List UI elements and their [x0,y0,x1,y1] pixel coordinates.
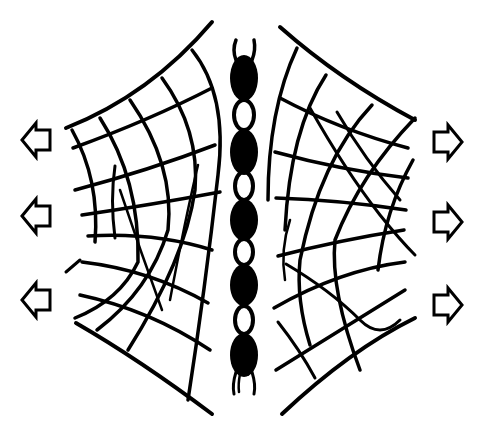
chain-black-segment [230,264,258,306]
chain-web-diagram [0,0,482,424]
chain-top-horn-left [234,40,236,60]
chain-bottom-leg-mid [239,374,240,392]
chain-black-segment [230,129,258,175]
central-chain [230,40,258,394]
chain-black-segment [230,199,258,241]
chain-white-link [234,100,254,130]
chain-white-link [235,306,253,334]
chain-white-link [235,239,253,265]
chain-black-segment [230,55,258,101]
chain-black-segment [230,333,258,377]
chain-white-link [235,172,253,200]
